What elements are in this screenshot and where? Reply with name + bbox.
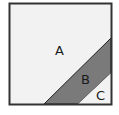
label-b: B <box>81 72 90 87</box>
partitioned-square-diagram: A B C <box>0 0 119 115</box>
label-a: A <box>55 43 64 58</box>
label-c: C <box>96 88 105 103</box>
